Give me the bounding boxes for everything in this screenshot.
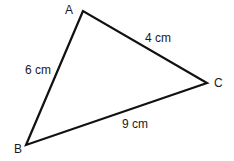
side-label-bc: 9 cm: [122, 118, 148, 130]
vertex-label-c: C: [214, 77, 223, 89]
side-label-ab: 6 cm: [25, 64, 51, 76]
triangle-abc: [26, 11, 207, 145]
side-label-ac: 4 cm: [145, 32, 171, 44]
vertex-label-a: A: [65, 4, 73, 16]
vertex-label-b: B: [14, 143, 22, 155]
triangle-diagram: [0, 0, 234, 161]
